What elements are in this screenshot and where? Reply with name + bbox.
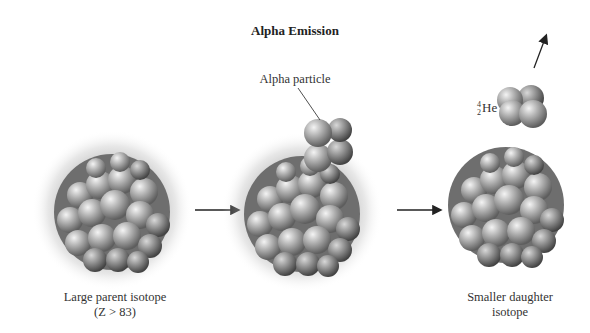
alpha-emission-diagram: Alpha Emission Alpha particle 4 2 He Lar… (0, 0, 590, 333)
parent-nucleus (32, 130, 192, 290)
daughter-label-line1: Smaller daughter (450, 290, 570, 305)
parent-isotope-label: Large parent isotope (Z > 83) (40, 290, 190, 320)
arrow-up-icon (534, 36, 546, 68)
daughter-label-line2: isotope (450, 305, 570, 320)
emitting-nucleus (222, 88, 382, 292)
atomic-number: 2 (477, 108, 481, 117)
alpha-particle-leader-line (298, 88, 320, 120)
diagram-title: Alpha Emission (0, 23, 590, 39)
diagram-graphics (0, 0, 590, 333)
daughter-nucleus (448, 147, 564, 268)
daughter-isotope-label: Smaller daughter isotope (450, 290, 570, 320)
element-symbol: He (482, 100, 497, 115)
nuclide-numbers: 4 2 (477, 101, 481, 117)
emitted-alpha-particle (497, 36, 547, 128)
parent-label-line2: (Z > 83) (40, 305, 190, 320)
helium-notation: 4 2 He (477, 100, 497, 117)
parent-label-line1: Large parent isotope (40, 290, 190, 305)
alpha-particle-label: Alpha particle (230, 72, 360, 87)
